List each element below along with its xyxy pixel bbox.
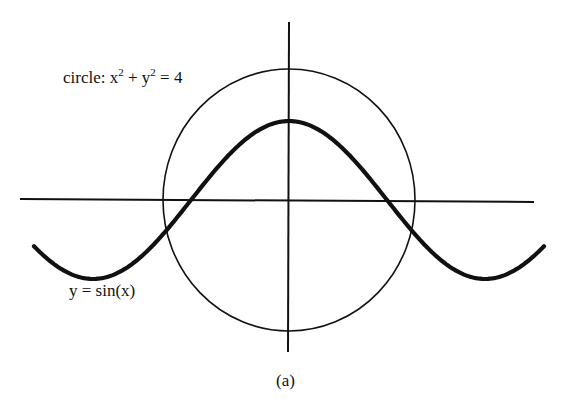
diagram-canvas: circle: x2 + y2 = 4 y = sin(x) (a) — [0, 0, 561, 415]
x-axis — [20, 199, 534, 202]
sine-equation-label: y = sin(x) — [69, 281, 135, 301]
diagram-svg — [0, 0, 561, 415]
circle-equation-label: circle: x2 + y2 = 4 — [63, 68, 182, 88]
y-axis — [288, 22, 289, 352]
figure-caption: (a) — [276, 371, 295, 391]
